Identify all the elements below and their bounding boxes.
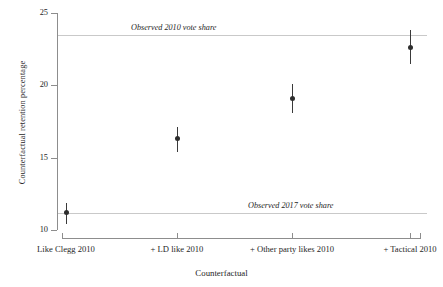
data-point — [408, 45, 413, 50]
x-tick-1 — [177, 233, 178, 238]
y-tick-10 — [51, 230, 57, 231]
reference-line-2 — [58, 213, 427, 214]
data-point — [175, 136, 180, 141]
y-tick-25 — [51, 13, 57, 14]
reference-line-label-2: Observed 2017 vote share — [248, 201, 333, 210]
counterfactual-retention-chart: Counterfactual retention percentage 1015… — [0, 0, 443, 287]
reference-line-label-1: Observed 2010 vote share — [131, 23, 216, 32]
x-axis-title: Counterfactual — [0, 268, 443, 278]
x-tick-3 — [410, 233, 411, 238]
x-tick-2 — [292, 233, 293, 238]
y-tick-20 — [51, 85, 57, 86]
reference-line-1 — [58, 35, 427, 36]
data-point — [290, 96, 295, 101]
x-axis-cap-right — [420, 233, 421, 239]
x-axis-line — [62, 238, 420, 239]
y-tick-label-15: 15 — [8, 153, 48, 162]
data-point — [64, 210, 69, 215]
y-tick-label-20: 20 — [8, 80, 48, 89]
x-axis-cap-left — [62, 233, 63, 239]
y-axis-line — [57, 13, 58, 230]
x-tick-label-4: + Tactical 2010 — [335, 244, 443, 254]
y-tick-label-25: 25 — [8, 8, 48, 17]
y-tick-15 — [51, 158, 57, 159]
y-axis-title: Counterfactual retention percentage — [18, 23, 27, 223]
y-tick-label-10: 10 — [8, 225, 48, 234]
